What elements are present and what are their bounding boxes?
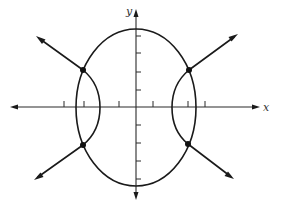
intersection-point-lower-left — [80, 142, 86, 148]
y-axis-label: y — [125, 5, 133, 18]
intersection-point-upper-right — [186, 67, 192, 73]
ellipse-hyperbola-diagram: x y — [0, 0, 286, 218]
y-axis: y — [125, 5, 141, 200]
y-axis-up-arrow-icon — [134, 9, 139, 17]
y-axis-down-arrow-icon — [134, 192, 139, 200]
intersection-point-upper-left — [80, 67, 86, 73]
x-axis-right-arrow-icon — [252, 105, 260, 110]
x-axis: x — [10, 101, 270, 114]
x-axis-left-arrow-icon — [10, 105, 18, 110]
intersection-point-lower-right — [185, 141, 191, 147]
x-axis-label: x — [263, 101, 270, 114]
